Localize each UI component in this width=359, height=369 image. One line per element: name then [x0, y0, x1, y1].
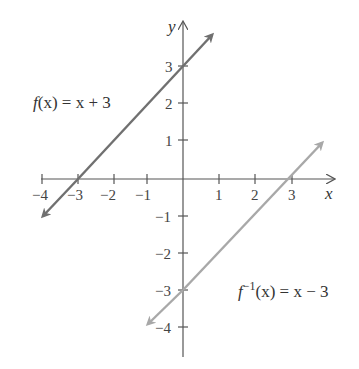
x-tick-label: 2	[251, 187, 259, 203]
y-tick-label: −4	[155, 320, 171, 336]
f-equation-label: f(x) = x + 3	[33, 93, 111, 112]
finv-equation-label: f−1(x) = x − 3	[238, 279, 329, 301]
y-tick-label: 2	[165, 96, 173, 112]
x-tick-label: −1	[135, 187, 151, 203]
y-tick-label: −2	[155, 246, 171, 262]
y-tick-label: −3	[155, 283, 171, 299]
y-tick-label: −1	[155, 209, 171, 225]
function-inverse-graph: −4 −3 −2 −1 1 2 3 x 3 2 1 −1 −2 −3 −4 y …	[0, 0, 359, 369]
finv-line	[183, 143, 322, 290]
x-tick-label: 3	[288, 187, 296, 203]
x-tick-label: −4	[32, 187, 48, 203]
y-tick-label: 3	[165, 59, 173, 75]
y-tick-label: 1	[165, 133, 173, 149]
y-axis-label: y	[166, 17, 176, 36]
x-axis-label: x	[324, 184, 333, 203]
x-tick-label: 1	[215, 187, 223, 203]
x-tick-label: −2	[100, 187, 116, 203]
